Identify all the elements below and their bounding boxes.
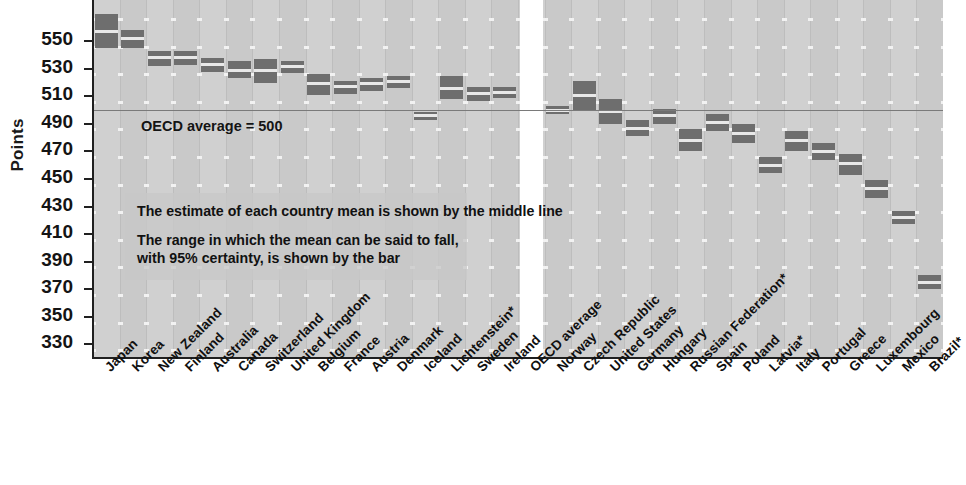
grid-tick-dot bbox=[436, 184, 441, 187]
grid-tick-dot bbox=[782, 46, 787, 49]
column-separator bbox=[916, 0, 917, 358]
grid-tick-dot bbox=[914, 266, 919, 269]
grid-tick-dot bbox=[197, 46, 202, 49]
grid-tick-dot bbox=[914, 128, 919, 131]
grid-tick-dot bbox=[835, 322, 840, 325]
mean-estimate-line bbox=[95, 30, 118, 33]
grid-tick-dot bbox=[622, 156, 627, 159]
y-axis-tick-label: 550 bbox=[13, 28, 73, 50]
grid-tick-dot bbox=[543, 156, 548, 159]
grid-tick-dot bbox=[197, 156, 202, 159]
grid-tick-dot bbox=[782, 211, 787, 214]
grid-tick-dot bbox=[702, 211, 707, 214]
grid-tick-dot bbox=[675, 211, 680, 214]
grid-tick-dot bbox=[622, 239, 627, 242]
grid-tick-dot bbox=[596, 322, 601, 325]
grid-tick-dot bbox=[383, 156, 388, 159]
grid-tick-dot bbox=[702, 156, 707, 159]
column-separator bbox=[518, 0, 519, 358]
grid-tick-dot bbox=[888, 46, 893, 49]
grid-tick-dot bbox=[543, 46, 548, 49]
grid-tick-dot bbox=[808, 184, 813, 187]
y-axis-tick-label: 410 bbox=[13, 221, 73, 243]
y-axis-tick bbox=[84, 150, 93, 152]
grid-tick-dot bbox=[675, 184, 680, 187]
grid-tick-dot bbox=[835, 101, 840, 104]
grid-tick-dot bbox=[383, 18, 388, 21]
column-separator bbox=[704, 0, 705, 358]
mean-estimate-line bbox=[679, 139, 702, 142]
grid-tick-dot bbox=[410, 18, 415, 21]
grid-tick-dot bbox=[782, 101, 787, 104]
y-axis-tick-label: 470 bbox=[13, 138, 73, 160]
grid-tick-dot bbox=[224, 101, 229, 104]
grid-tick-dot bbox=[702, 239, 707, 242]
mean-estimate-line bbox=[148, 56, 171, 59]
grid-tick-dot bbox=[835, 128, 840, 131]
grid-tick-dot bbox=[197, 101, 202, 104]
grid-tick-dot bbox=[383, 294, 388, 297]
grid-tick-dot bbox=[888, 266, 893, 269]
grid-tick-dot bbox=[835, 239, 840, 242]
grid-tick-dot bbox=[888, 156, 893, 159]
grid-tick-dot bbox=[489, 18, 494, 21]
oecd-average-white-column bbox=[520, 0, 543, 358]
grid-tick-dot bbox=[649, 46, 654, 49]
y-axis-tick-label: 370 bbox=[13, 276, 73, 298]
grid-tick-dot bbox=[489, 46, 494, 49]
grid-tick-dot bbox=[224, 46, 229, 49]
grid-tick-dot bbox=[569, 46, 574, 49]
grid-tick-dot bbox=[118, 101, 123, 104]
grid-tick-dot bbox=[755, 322, 760, 325]
mean-estimate-line bbox=[732, 132, 755, 135]
y-axis-tick-label: 350 bbox=[13, 304, 73, 326]
grid-tick-dot bbox=[197, 73, 202, 76]
grid-tick-dot bbox=[543, 266, 548, 269]
grid-tick-dot bbox=[569, 239, 574, 242]
column-separator bbox=[784, 0, 785, 358]
y-axis-tick bbox=[84, 233, 93, 235]
mean-estimate-line bbox=[414, 114, 437, 117]
grid-tick-dot bbox=[782, 322, 787, 325]
grid-tick-dot bbox=[729, 239, 734, 242]
grid-tick-dot bbox=[144, 184, 149, 187]
grid-tick-dot bbox=[277, 294, 282, 297]
grid-tick-dot bbox=[729, 18, 734, 21]
mean-estimate-line bbox=[892, 216, 915, 219]
grid-tick-dot bbox=[171, 73, 176, 76]
mean-estimate-line bbox=[759, 164, 782, 167]
grid-tick-dot bbox=[357, 322, 362, 325]
grid-tick-dot bbox=[277, 184, 282, 187]
grid-tick-dot bbox=[888, 18, 893, 21]
mean-estimate-line bbox=[360, 82, 383, 85]
grid-tick-dot bbox=[304, 18, 309, 21]
grid-tick-dot bbox=[489, 101, 494, 104]
grid-tick-dot bbox=[649, 73, 654, 76]
grid-tick-dot bbox=[489, 128, 494, 131]
grid-tick-dot bbox=[941, 184, 943, 187]
grid-tick-dot bbox=[357, 101, 362, 104]
grid-tick-dot bbox=[729, 184, 734, 187]
grid-tick-dot bbox=[596, 46, 601, 49]
grid-tick-dot bbox=[250, 156, 255, 159]
grid-tick-dot bbox=[914, 46, 919, 49]
grid-tick-dot bbox=[861, 18, 866, 21]
grid-tick-dot bbox=[755, 18, 760, 21]
grid-tick-dot bbox=[118, 322, 123, 325]
grid-tick-dot bbox=[941, 156, 943, 159]
grid-tick-dot bbox=[782, 239, 787, 242]
mean-estimate-line bbox=[228, 69, 251, 72]
column-separator bbox=[491, 0, 492, 358]
grid-tick-dot bbox=[569, 294, 574, 297]
grid-tick-dot bbox=[410, 101, 415, 104]
grid-tick-dot bbox=[596, 184, 601, 187]
grid-tick-dot bbox=[596, 73, 601, 76]
mean-estimate-line bbox=[387, 80, 410, 83]
grid-tick-dot bbox=[622, 18, 627, 21]
grid-tick-dot bbox=[649, 239, 654, 242]
grid-tick-dot bbox=[569, 211, 574, 214]
grid-tick-dot bbox=[755, 211, 760, 214]
grid-tick-dot bbox=[330, 128, 335, 131]
grid-tick-dot bbox=[649, 128, 654, 131]
grid-tick-dot bbox=[569, 184, 574, 187]
